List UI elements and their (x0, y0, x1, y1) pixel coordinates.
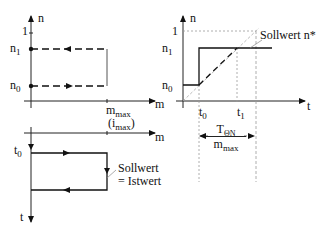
tick-label-n1: n1 (162, 42, 173, 54)
tick-label-t0: t0 (14, 144, 22, 156)
arrow-left-icon (63, 187, 70, 193)
tick-label-t1: t1 (237, 106, 245, 118)
m-axis-label: m (155, 98, 164, 110)
tick-label-n1: n1 (10, 42, 21, 54)
arrow-right-icon (63, 150, 70, 156)
current-loop (31, 153, 107, 190)
annotation-actual: = Istwert (118, 175, 161, 187)
arrow-left-icon (64, 46, 71, 52)
n-axis-label: n (190, 12, 196, 24)
setpoint-label: Sollwert n* (260, 29, 316, 41)
dimension-fraction: TΘN mmax (206, 123, 246, 150)
t-axis-label: t (20, 211, 23, 223)
tick-label-t0: t0 (199, 106, 207, 118)
setpoint-ramp-light (183, 28, 259, 101)
annotation-setpoint: Sollwert (118, 162, 159, 174)
n-axis-label: n (38, 12, 44, 24)
arrow-right-icon (66, 83, 73, 89)
tick-label-imax: (imax) (108, 117, 135, 129)
m-axis-label: m (155, 131, 164, 143)
t-axis-label: t (307, 100, 310, 112)
tick-label-n0: n0 (10, 79, 21, 91)
setpoint-ramp (199, 48, 237, 85)
arrow-down-icon (104, 168, 110, 174)
tick-label-one: 1 (22, 25, 28, 37)
actual-speed-step (183, 48, 272, 85)
fraction-numerator: TΘN (206, 123, 246, 137)
fraction-denominator: mmax (206, 137, 246, 150)
arrow-down-icon (28, 144, 34, 150)
top-left-plot (24, 16, 155, 108)
tick-label-one: 1 (172, 25, 178, 37)
tick-label-mmax: mmax (106, 104, 131, 116)
tick-label-n0: n0 (162, 79, 173, 91)
